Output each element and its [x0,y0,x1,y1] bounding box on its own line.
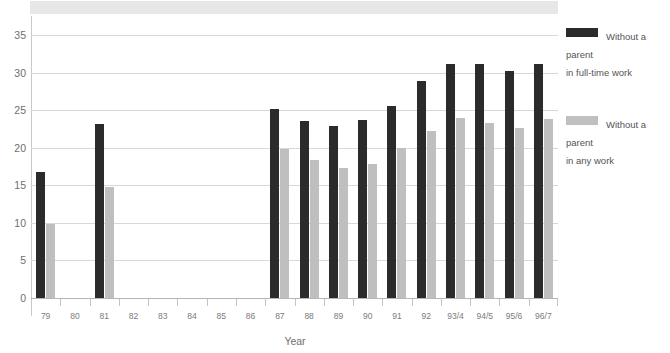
x-tick-label: 92 [422,311,431,321]
bar [456,118,465,298]
bar-group [212,20,231,298]
x-tick [529,299,530,306]
x-tick-label: 90 [363,311,372,321]
legend: Without a parent in full-time workWithou… [566,26,670,202]
bar [300,121,309,298]
bar [515,128,524,298]
bar [280,149,289,298]
legend-swatch [566,28,598,37]
bar-group [329,20,348,298]
plot-area [31,20,558,298]
y-tick-label: 10 [14,218,26,228]
x-tick-label: 89 [334,311,343,321]
x-tick [441,299,442,306]
x-tick [60,299,61,306]
y-tick-label: 30 [14,68,26,78]
x-tick [236,299,237,306]
legend-label: Without a parent in any work [566,119,646,166]
bar [36,172,45,298]
legend-item: Without a parent in full-time work [566,26,670,80]
x-tick-label: 84 [187,311,196,321]
bar [329,126,338,298]
bar [446,64,455,298]
x-tick-label: 95/6 [506,311,523,321]
x-tick [295,299,296,306]
bar-group [300,20,319,298]
x-tick-label: 91 [392,311,401,321]
bar [427,131,436,298]
x-tick [412,299,413,306]
bar-group [475,20,494,298]
bar-group [505,20,524,298]
bar-group [65,20,84,298]
bar-group [95,20,114,298]
bar [310,160,319,298]
x-axis-ticks [31,299,558,309]
bar-group [358,20,377,298]
bar [505,71,514,298]
x-tick [148,299,149,306]
bar-group [183,20,202,298]
y-axis-tick-labels: 05101520253035 [0,20,26,298]
x-tick-label: 85 [217,311,226,321]
x-tick-label: 86 [246,311,255,321]
x-tick [324,299,325,306]
x-tick [382,299,383,306]
bar-group [534,20,553,298]
x-tick-label: 96/7 [535,311,552,321]
bar [475,64,484,298]
x-tick [177,299,178,306]
bar [368,164,377,298]
bar-group [446,20,465,298]
legend-label: Without a parent in full-time work [566,31,646,78]
bar-group [417,20,436,298]
bar [46,224,55,298]
bar [387,106,396,298]
bar-group [387,20,406,298]
x-tick [470,299,471,306]
bar [417,81,426,298]
header-band [30,1,558,14]
bar [95,124,104,298]
bar-group [153,20,172,298]
y-tick-label: 25 [14,105,26,115]
bar [544,119,553,298]
x-tick [265,299,266,306]
x-axis-tick-labels: 798081828384858687888990919293/494/595/6… [31,311,558,325]
bar-group [241,20,260,298]
bar [485,123,494,298]
x-tick-label: 82 [129,311,138,321]
bar [358,120,367,298]
x-tick-label: 81 [99,311,108,321]
x-tick [207,299,208,306]
x-axis-title: Year [0,335,590,347]
x-tick [353,299,354,306]
bar [105,187,114,298]
y-tick-label: 0 [20,293,26,303]
bar-chart-figure: 05101520253035 7980818283848586878889909… [0,0,670,353]
x-tick-label: 83 [158,311,167,321]
x-tick-label: 80 [70,311,79,321]
bar [534,64,543,298]
x-tick-label: 79 [41,311,50,321]
bars-layer [31,20,558,298]
x-tick-label: 93/4 [447,311,464,321]
y-tick-label: 15 [14,180,26,190]
legend-item: Without a parent in any work [566,114,670,168]
y-tick-label: 35 [14,30,26,40]
legend-swatch [566,116,598,125]
bar-group [124,20,143,298]
x-tick [119,299,120,306]
bar [339,168,348,298]
bar-group [270,20,289,298]
x-tick-label: 88 [304,311,313,321]
x-tick [31,299,32,306]
bar-group [36,20,55,298]
y-tick-label: 20 [14,143,26,153]
x-tick [90,299,91,306]
x-tick-label: 94/5 [477,311,494,321]
bar [270,109,279,298]
x-tick [499,299,500,306]
bar [397,148,406,298]
x-tick [557,299,558,306]
